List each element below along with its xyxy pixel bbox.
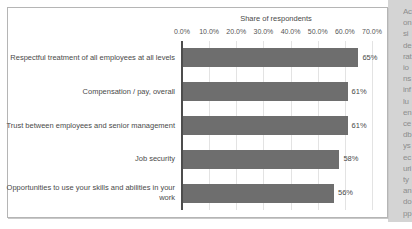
bar-value-label: 61%: [352, 121, 367, 130]
x-tick-label: 50.0%: [308, 28, 328, 35]
category-label: Compensation / pay, overall: [4, 87, 182, 97]
clipped-body-text: Aconsiderationsinfluencedbysecurityandop…: [403, 6, 412, 222]
x-tick-label: 70.0%: [362, 28, 382, 35]
page-gutter: Aconsiderationsinfluencedbysecurityandop…: [388, 0, 412, 229]
x-tick-label: 0.0%: [174, 28, 190, 35]
bar-value-label: 65%: [362, 53, 377, 62]
bar-value-label: 58%: [343, 154, 358, 163]
category-label: Trust between employees and senior manag…: [4, 121, 182, 131]
bar[interactable]: [182, 184, 334, 203]
y-axis-category-labels: Respectful treatment of all employees at…: [0, 41, 182, 210]
plot-area: [182, 41, 372, 210]
gridline: [372, 41, 373, 210]
page-bottom-strip: [0, 222, 412, 229]
x-tick-label: 60.0%: [335, 28, 355, 35]
x-tick-label: 20.0%: [226, 28, 246, 35]
category-label: Job security: [4, 154, 182, 164]
bar-value-label: 61%: [352, 87, 367, 96]
x-tick-label: 40.0%: [281, 28, 301, 35]
bar[interactable]: [182, 82, 348, 101]
category-label: Respectful treatment of all employees at…: [4, 53, 182, 63]
bar[interactable]: [182, 150, 339, 169]
bar[interactable]: [182, 48, 358, 67]
category-label: Opportunities to use your skills and abi…: [4, 183, 182, 203]
chart-title: Share of respondents: [178, 14, 374, 23]
x-tick-label: 30.0%: [253, 28, 273, 35]
page-canvas: Aconsiderationsinfluencedbysecurityandop…: [0, 0, 412, 229]
bar-value-label: 56%: [338, 188, 353, 197]
x-tick-label: 10.0%: [199, 28, 219, 35]
bar[interactable]: [182, 116, 348, 135]
